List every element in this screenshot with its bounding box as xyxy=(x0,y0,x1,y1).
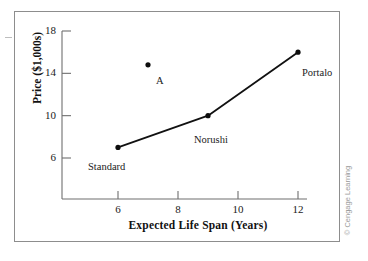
x-tick-label: 12 xyxy=(287,203,309,215)
copyright-credit: © Cengage Learning xyxy=(343,156,352,246)
data-point-label: Norushi xyxy=(194,134,228,145)
chart-plot-area: 6101418681012 StandardNorushiPortaloA Ex… xyxy=(0,0,368,261)
y-axis-title: Price ($1,000s) xyxy=(31,3,43,133)
data-point-label: Portalo xyxy=(302,67,332,78)
x-tick-label: 6 xyxy=(107,203,129,215)
data-point-label: A xyxy=(156,75,164,86)
figure-stage: 6101418681012 StandardNorushiPortaloA Ex… xyxy=(0,0,368,261)
x-tick-label: 8 xyxy=(167,203,189,215)
x-axis-title: Expected Life Span (Years) xyxy=(78,219,318,231)
data-point-label: Standard xyxy=(88,161,125,172)
x-tick-label: 10 xyxy=(227,203,249,215)
y-tick-label: 6 xyxy=(34,151,56,163)
